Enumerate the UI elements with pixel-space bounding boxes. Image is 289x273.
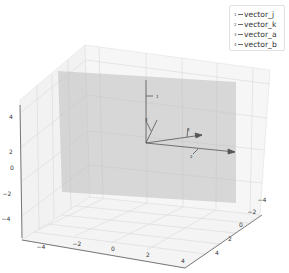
svg-text:0: 0	[111, 245, 115, 252]
svg-text:−2: −2	[3, 190, 12, 197]
svg-text:2: 2	[9, 148, 13, 155]
svg-text:4: 4	[181, 257, 185, 264]
legend-label: vector_a	[244, 30, 277, 39]
figure: −4 −2 0 2 4 −4 −2 0 2 4 4 2 0 −2 −4	[0, 0, 289, 273]
z-tick-labels: 4 2 0 −2 −4	[2, 113, 15, 222]
legend-label: vector_b	[244, 40, 277, 49]
svg-text:−4: −4	[37, 243, 46, 250]
svg-text:4: 4	[215, 249, 219, 256]
legend-line-icon	[238, 34, 243, 35]
legend-item-vector-j: 1 vector_j	[234, 9, 281, 19]
svg-text:2: 2	[228, 235, 232, 242]
gray-plane	[58, 71, 236, 203]
svg-text:−4: −4	[258, 196, 267, 203]
legend-label: vector_j	[244, 10, 274, 19]
svg-text:0: 0	[10, 164, 14, 171]
svg-text:4: 4	[9, 113, 13, 120]
svg-text:−4: −4	[2, 215, 11, 222]
legend-item-vector-a: 3 vector_a	[234, 29, 281, 39]
svg-text:2: 2	[146, 251, 150, 258]
svg-text:−2: −2	[248, 208, 257, 215]
legend-item-vector-b: 4 vector_b	[234, 39, 281, 49]
legend-label: vector_k	[244, 20, 276, 29]
legend: 1 vector_j 2 vector_k 3 vector_a 4 vecto…	[229, 5, 285, 51]
svg-text:0: 0	[239, 221, 243, 228]
legend-item-vector-k: 2 vector_k	[234, 19, 281, 29]
legend-line-icon	[238, 44, 243, 45]
legend-line-icon	[238, 14, 243, 15]
svg-text:−2: −2	[73, 240, 82, 247]
legend-line-icon	[238, 24, 243, 25]
